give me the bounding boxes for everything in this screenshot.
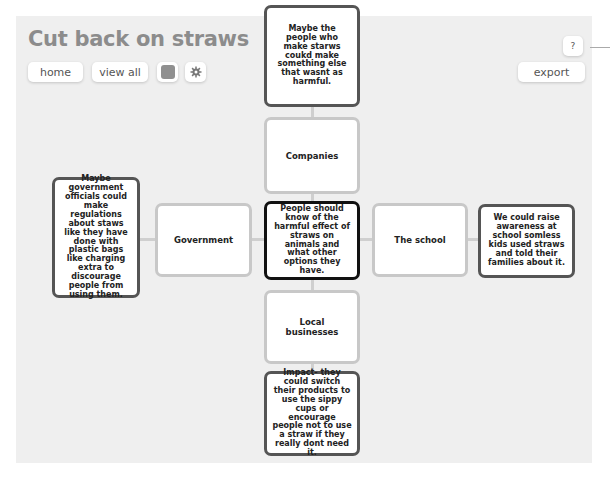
category-label-school: The school xyxy=(394,235,445,245)
category-box-local-businesses[interactable]: Local businesses xyxy=(264,290,360,364)
idea-box-right[interactable]: We could raise awareness at school somle… xyxy=(478,204,575,278)
category-box-school[interactable]: The school xyxy=(372,203,468,277)
idea-text-top: Maybe the people who make starws coukd m… xyxy=(273,25,351,88)
settings-button[interactable] xyxy=(185,62,206,82)
center-topic-box[interactable]: People should know of the harmful effect… xyxy=(264,201,360,280)
gear-icon xyxy=(190,66,202,78)
color-swatch xyxy=(161,65,175,79)
view-all-button-label: view all xyxy=(99,66,141,79)
idea-text-right: We could raise awareness at school somle… xyxy=(487,214,566,268)
home-button-label: home xyxy=(40,66,71,79)
idea-text-bottom: Impact- they could switch their products… xyxy=(272,369,352,459)
category-label-government: Government xyxy=(174,235,233,245)
category-label-local-businesses: Local businesses xyxy=(273,317,351,337)
help-button[interactable]: ? xyxy=(563,36,583,56)
help-button-label: ? xyxy=(571,41,576,51)
idea-box-left[interactable]: Maybe government officials could make re… xyxy=(52,177,140,298)
idea-text-left: Maybe government officials could make re… xyxy=(60,175,132,300)
category-box-government[interactable]: Government xyxy=(155,203,252,277)
home-button[interactable]: home xyxy=(28,62,83,82)
color-swatch-button[interactable] xyxy=(157,62,178,82)
category-box-companies[interactable]: Companies xyxy=(264,117,360,194)
view-all-button[interactable]: view all xyxy=(92,62,148,82)
export-button-label: export xyxy=(534,66,570,79)
category-label-companies: Companies xyxy=(286,151,339,161)
idea-box-top[interactable]: Maybe the people who make starws coukd m… xyxy=(264,5,360,107)
help-pointer-line xyxy=(590,47,610,48)
idea-box-bottom[interactable]: Impact- they could switch their products… xyxy=(264,371,360,456)
center-topic-text: People should know of the harmful effect… xyxy=(273,205,351,277)
page-title: Cut back on straws xyxy=(28,27,249,51)
export-button[interactable]: export xyxy=(518,62,585,82)
